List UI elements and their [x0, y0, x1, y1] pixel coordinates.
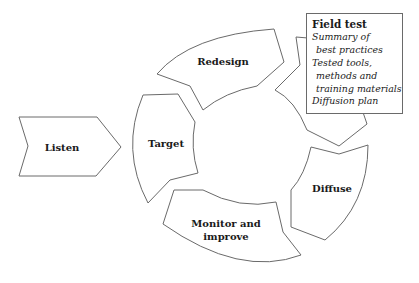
callout-title: Field test	[312, 18, 402, 31]
field-test-callout: Field test Summary of best practices Tes…	[306, 13, 403, 114]
redesign-label: Redesign	[197, 56, 249, 67]
monitor-label-line2: improve	[203, 231, 248, 242]
stage-listen: Listen	[19, 117, 121, 176]
stage-target: Target	[133, 94, 198, 203]
diffuse-label: Diffuse	[312, 183, 352, 194]
callout-line: methods and	[312, 70, 402, 83]
target-label: Target	[148, 138, 185, 149]
listen-label: Listen	[45, 142, 80, 153]
stage-diffuse: Diffuse	[291, 145, 368, 240]
callout-line: best practices	[312, 44, 402, 57]
callout-line: training materials	[312, 83, 402, 96]
monitor-label-line1: Monitor and	[191, 218, 261, 229]
callout-line: Diffusion plan	[312, 95, 402, 108]
stage-monitor: Monitor and improve	[163, 190, 301, 262]
callout-line: Tested tools,	[312, 57, 402, 70]
callout-line: Summary of	[312, 31, 402, 44]
